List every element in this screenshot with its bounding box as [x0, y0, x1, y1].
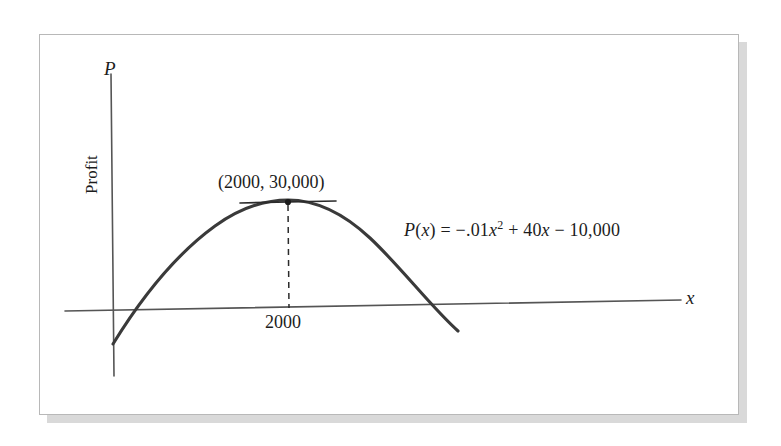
- equation-function-name: P: [404, 220, 415, 240]
- equation-linear-term: + 40: [503, 220, 541, 240]
- vertex-coordinate-label: (2000, 30,000): [218, 173, 325, 191]
- equation-argument: x: [421, 220, 429, 240]
- y-axis-label: P: [104, 59, 116, 78]
- equation-linear-variable: x: [542, 220, 550, 240]
- equation-annotation: P(x) = −.01x2 + 40x − 10,000: [404, 221, 620, 239]
- x-axis-label: x: [686, 288, 694, 307]
- equation-quadratic-coefficient: .01: [466, 220, 489, 240]
- figure-container: P x Profit (2000, 30,000) 2000 P(x) = −.…: [0, 0, 781, 446]
- equation-constant-term: − 10,000: [550, 220, 620, 240]
- figure-frame-border: [39, 34, 739, 415]
- y-axis-title: Profit: [83, 140, 100, 210]
- equation-equals: =: [436, 220, 456, 240]
- equation-leading-sign: −: [456, 220, 466, 240]
- x-axis-tick-label: 2000: [265, 313, 301, 331]
